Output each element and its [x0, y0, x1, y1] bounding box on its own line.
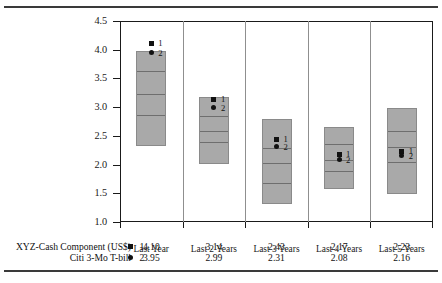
column-separator [308, 21, 309, 222]
range-bar [136, 51, 166, 146]
y-axis-tick [113, 136, 120, 137]
marker-label-series-1: 1 [158, 39, 162, 48]
y-axis-tick [113, 165, 120, 166]
range-bar [262, 119, 292, 204]
legend-value-cell: 2.31 [254, 252, 300, 263]
column-separator [245, 21, 246, 222]
legend-value-cell: 2.43 [254, 241, 300, 252]
circle-marker-icon [149, 50, 154, 55]
y-axis-label: 2.5 [77, 131, 107, 141]
marker-label-series-2: 2 [221, 104, 225, 113]
x-axis-tick [432, 222, 433, 228]
quartile-line [325, 144, 353, 145]
y-axis-tick [113, 222, 120, 223]
quartile-line [137, 115, 165, 116]
square-marker-icon [149, 41, 154, 46]
quartile-line [388, 162, 416, 163]
x-axis-tick [245, 222, 246, 228]
x-axis-tick [308, 222, 309, 228]
quartile-line [137, 71, 165, 72]
y-axis-tick [113, 193, 120, 194]
quartile-line [137, 94, 165, 95]
legend-value-cell: 3.14 [191, 241, 237, 252]
chart-figure: 4.54.03.53.02.52.01.51.0 1212121212 Last… [0, 0, 442, 283]
y-axis-tick [113, 50, 120, 51]
y-axis-label: 2.0 [77, 160, 107, 170]
marker-label-series-2: 2 [346, 156, 350, 165]
quartile-line [200, 131, 228, 132]
quartile-line [200, 142, 228, 143]
quartile-line [263, 183, 291, 184]
plot-area: 4.54.03.53.02.52.01.51.0 1212121212 Last… [120, 21, 433, 222]
y-axis-label: 4.0 [77, 45, 107, 55]
marker-label-series-1: 1 [221, 95, 225, 104]
column-separator [183, 21, 184, 222]
x-axis-tick [183, 222, 184, 228]
y-axis-label: 3.5 [77, 73, 107, 83]
legend-value-cell: 4.10 [128, 241, 174, 252]
column-separator [370, 21, 371, 222]
y-axis-tick [113, 107, 120, 108]
y-axis-tick [113, 78, 120, 79]
legend-value-cell: 2.16 [379, 252, 425, 263]
bottom-rule [4, 270, 438, 272]
y-axis-tick [113, 21, 120, 22]
quartile-line [200, 116, 228, 117]
legend-value-cell: 2.23 [379, 241, 425, 252]
y-axis-label: 4.5 [77, 16, 107, 26]
legend-row: Citi 3-Mo T-bill23.952.992.312.082.16 [0, 252, 442, 263]
quartile-line [263, 163, 291, 164]
marker-label-series-2: 2 [158, 49, 162, 58]
y-axis-label: 1.5 [77, 188, 107, 198]
quartile-line [388, 131, 416, 132]
marker-label-series-2: 2 [284, 143, 288, 152]
legend-row: XYZ-Cash Component (US$)14.103.142.432.1… [0, 241, 442, 252]
legend-table: XYZ-Cash Component (US$)14.103.142.432.1… [0, 241, 442, 263]
marker-label-series-2: 2 [409, 152, 413, 161]
x-axis-tick [120, 222, 121, 228]
y-axis-label: 3.0 [77, 102, 107, 112]
legend-value-cell: 3.95 [128, 252, 174, 263]
legend-value-cell: 2.17 [316, 241, 362, 252]
x-axis-tick [370, 222, 371, 228]
y-axis-label: 1.0 [77, 217, 107, 227]
square-marker-icon [274, 137, 279, 142]
legend-series-name: XYZ-Cash Component (US$) [16, 241, 131, 252]
legend-series-name: Citi 3-Mo T-bill [70, 252, 131, 263]
quartile-line [325, 171, 353, 172]
top-rule [4, 6, 438, 8]
square-marker-icon [211, 97, 216, 102]
legend-value-cell: 2.08 [316, 252, 362, 263]
legend-value-cell: 2.99 [191, 252, 237, 263]
